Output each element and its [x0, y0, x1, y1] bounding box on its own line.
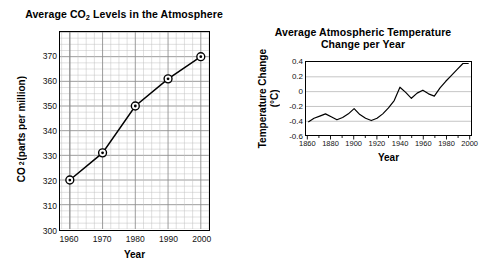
- co2-ylabel-subscript: 2: [18, 162, 25, 166]
- co2-x-tick: 1970: [93, 234, 112, 244]
- co2-x-tick: 2000: [192, 234, 211, 244]
- co2-y-tick: 330: [26, 151, 57, 161]
- co2-y-tick: 350: [26, 101, 57, 111]
- temperature-ylabel-line-1: Temperature Change: [257, 49, 268, 148]
- co2-plot-area: [59, 31, 210, 231]
- temperature-data-series: [306, 62, 471, 136]
- temperature-title-line-2: Change per Year: [249, 38, 477, 50]
- co2-y-tick: 370: [26, 51, 57, 61]
- co2-chart: Average CO2 Levels in the Atmosphere CO2…: [0, 0, 240, 273]
- temperature-y-tick-labels: 0.40.20-0.2-0.4-0.6: [282, 61, 303, 136]
- co2-y-tick: 320: [26, 176, 57, 186]
- temperature-y-tick: 0.2: [282, 72, 303, 81]
- co2-ylabel-suffix: (parts per million): [16, 76, 27, 163]
- temperature-chart: Average Atmospheric Temperature Change p…: [240, 0, 477, 273]
- co2-title-suffix: Levels in the Atmosphere: [90, 8, 223, 20]
- co2-x-tick: 1990: [159, 234, 178, 244]
- temperature-title-line-1: Average Atmospheric Temperature: [249, 26, 477, 38]
- temperature-y-axis-label-text: Temperature Change (°C): [257, 49, 281, 148]
- co2-x-axis-label: Year: [59, 249, 210, 260]
- temperature-y-tick: 0: [282, 87, 303, 96]
- co2-x-tick: 1980: [126, 234, 145, 244]
- co2-y-tick-labels: 300310320330340350360370: [26, 31, 57, 231]
- co2-line-path: [70, 57, 201, 180]
- temperature-y-tick: 0.4: [282, 57, 303, 66]
- co2-chart-title: Average CO2 Levels in the Atmosphere: [10, 8, 238, 22]
- co2-data-markers: [66, 53, 205, 184]
- co2-y-tick: 340: [26, 126, 57, 136]
- temperature-x-tick-marks: [305, 136, 472, 141]
- temperature-y-tick: -0.2: [282, 102, 303, 111]
- temperature-line-path: [308, 63, 468, 122]
- temperature-x-axis-label: Year: [305, 152, 472, 163]
- co2-x-tick: 1960: [59, 234, 78, 244]
- co2-y-axis-label-text: CO2 (parts per million): [16, 76, 27, 182]
- temperature-y-tick: -0.4: [282, 117, 303, 126]
- co2-y-tick: 310: [26, 201, 57, 211]
- temperature-ylabel-line-2: (°C): [269, 90, 280, 108]
- co2-x-tick-labels: 19601970198019902000: [30, 234, 230, 248]
- temperature-plot-area: [305, 61, 472, 136]
- co2-title-subscript: 2: [86, 13, 90, 22]
- temperature-y-axis-label: Temperature Change (°C): [256, 46, 282, 151]
- co2-title-prefix: Average CO: [25, 8, 86, 20]
- temperature-chart-title: Average Atmospheric Temperature Change p…: [249, 26, 477, 50]
- co2-data-series: [60, 32, 209, 229]
- co2-y-tick: 360: [26, 76, 57, 86]
- co2-ylabel-prefix: CO: [16, 168, 27, 183]
